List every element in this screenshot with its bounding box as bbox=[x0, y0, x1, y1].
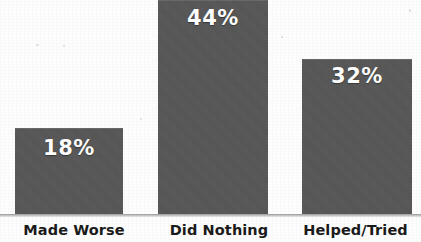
scan-speck bbox=[63, 45, 65, 47]
category-label-did-nothing: Did Nothing bbox=[148, 219, 290, 242]
bar-value-made-worse: 18% bbox=[15, 138, 123, 159]
scan-speck bbox=[36, 44, 39, 46]
bar-did-nothing bbox=[158, 0, 268, 216]
x-axis-category-labels: Made Worse Did Nothing Helped/Tried bbox=[0, 219, 421, 242]
category-label-helped-tried: Helped/Tried bbox=[290, 219, 421, 242]
x-axis-line bbox=[0, 214, 421, 217]
plot-area: 18% 44% 32% bbox=[0, 0, 421, 216]
category-label-made-worse: Made Worse bbox=[0, 219, 148, 242]
bar-value-helped-tried: 32% bbox=[302, 66, 412, 87]
scan-speck bbox=[409, 9, 411, 12]
bar-value-did-nothing: 44% bbox=[158, 8, 268, 29]
scan-speck bbox=[140, 118, 142, 120]
scan-speck bbox=[281, 36, 283, 38]
bar-chart: 18% 44% 32% Made Worse Did Nothing Helpe… bbox=[0, 0, 421, 242]
